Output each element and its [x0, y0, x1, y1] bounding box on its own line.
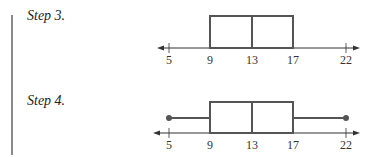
svg-text:9: 9 [207, 138, 213, 152]
svg-text:17: 17 [287, 53, 299, 67]
min-point [166, 115, 172, 121]
right-arrow-icon [353, 131, 360, 136]
svg-text:22: 22 [340, 138, 352, 152]
svg-text:13: 13 [246, 53, 258, 67]
max-point [343, 115, 349, 121]
right-arrow-icon [353, 46, 360, 51]
left-arrow-icon [153, 131, 160, 136]
svg-text:22: 22 [340, 53, 352, 67]
svg-text:9: 9 [207, 53, 213, 67]
step-3-boxplot: 5 9 13 17 22 [157, 16, 360, 67]
svg-text:17: 17 [287, 138, 299, 152]
box-plots: 5 9 13 17 22 5 9 13 17 22 [0, 0, 381, 157]
svg-text:13: 13 [246, 138, 258, 152]
svg-text:5: 5 [166, 138, 172, 152]
svg-text:5: 5 [166, 53, 172, 67]
left-arrow-icon [157, 46, 164, 51]
step-4-boxplot: 5 9 13 17 22 [153, 102, 360, 152]
